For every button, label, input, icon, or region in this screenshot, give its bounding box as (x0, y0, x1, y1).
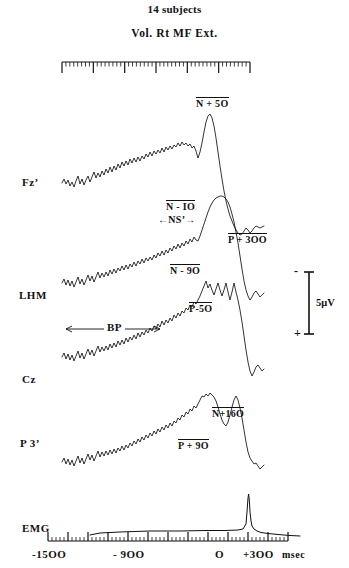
xaxis-tick-label-0: O (215, 549, 224, 560)
erp-figure: 14 subjects Vol. Rt MF Ext. N + 5O N - I… (0, 0, 349, 568)
xaxis-tick-label--900: - 9OO (113, 549, 145, 560)
xaxis-tick-label--1500: -15OO (32, 549, 66, 560)
xaxis-tick-label-300: +3OO (243, 549, 274, 560)
xaxis-unit-label: msec (282, 550, 305, 560)
bottom-time-axis (0, 0, 349, 568)
